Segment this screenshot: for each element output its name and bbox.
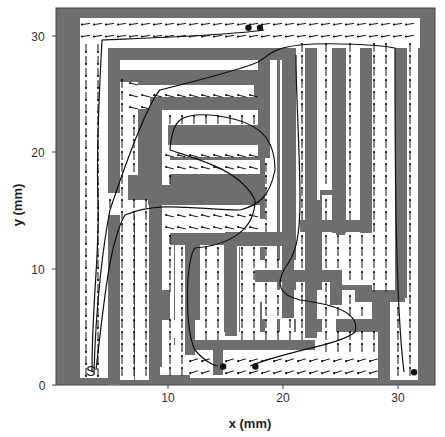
- y-tick-30: 30: [31, 30, 45, 44]
- y-tick-0: 0: [39, 379, 46, 393]
- x-tick-10: 10: [161, 391, 175, 405]
- x-axis-label: x (mm): [229, 416, 272, 431]
- y-axis-label: y (mm): [10, 184, 25, 227]
- start-marker-label: S: [86, 363, 95, 379]
- x-tick-20: 20: [276, 391, 290, 405]
- x-tick-30: 30: [391, 391, 405, 405]
- y-tick-20: 20: [31, 146, 45, 160]
- y-axis: 0 10 20 30 y (mm): [10, 30, 56, 393]
- y-tick-10: 10: [31, 263, 45, 277]
- maze-vector-field-figure: S 0 10 20 30 y (mm) 10 20 30 x (mm): [0, 0, 445, 437]
- x-axis: 10 20 30 x (mm): [161, 385, 405, 431]
